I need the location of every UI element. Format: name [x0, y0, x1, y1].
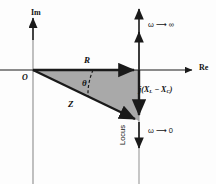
figure-canvas: Im Re O R Z θ ω ⟶ ∞ ω ⟶ 0 j(XL − XC) Loc…: [0, 0, 216, 184]
reactance-label-part1: j(X: [139, 85, 149, 94]
resistance-label: R: [84, 56, 90, 65]
phasor-diagram-svg: [0, 0, 216, 184]
omega-infinity-label: ω ⟶ ∞: [148, 21, 174, 29]
reactance-label: j(XL − XC): [139, 86, 172, 95]
real-axis-label: Re: [199, 64, 208, 72]
origin-label: O: [22, 74, 28, 82]
locus-label: Locus: [119, 125, 127, 145]
impedance-label: Z: [68, 100, 74, 109]
omega-zero-label: ω ⟶ 0: [148, 127, 173, 135]
imaginary-axis-label: Im: [31, 9, 41, 17]
reactance-label-end: ): [170, 85, 173, 94]
phase-angle-label: θ: [82, 79, 87, 88]
reactance-label-mid: − X: [152, 85, 166, 94]
